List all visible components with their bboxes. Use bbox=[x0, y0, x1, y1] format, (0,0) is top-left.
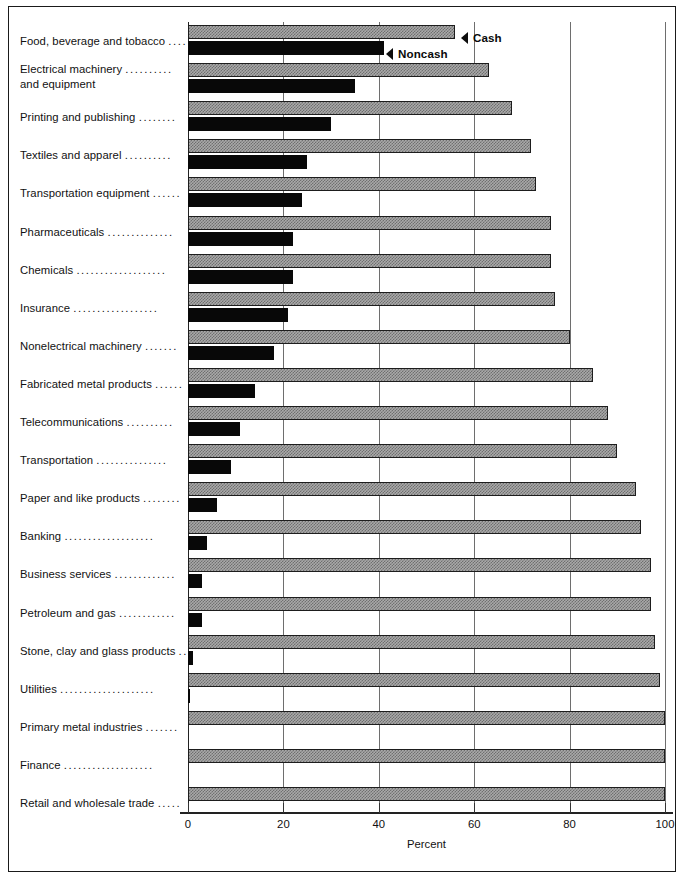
leader-dots: .................... bbox=[60, 683, 155, 695]
category-label-text: Banking ................... bbox=[20, 530, 154, 542]
cash-bar bbox=[188, 406, 608, 420]
leader-dots: ........ bbox=[139, 111, 177, 123]
leader-dots: ....... bbox=[145, 340, 178, 352]
category-label: Textiles and apparel .......... bbox=[20, 136, 188, 174]
leader-dots: ...... bbox=[155, 378, 183, 390]
x-tick bbox=[665, 803, 666, 813]
bar-row bbox=[188, 327, 665, 365]
leader-dots: ............. bbox=[114, 568, 176, 580]
bar-row bbox=[188, 441, 665, 479]
x-tick-label: 60 bbox=[468, 818, 481, 830]
category-label-text: Primary metal industries ....... bbox=[20, 721, 179, 733]
x-tick-label: 20 bbox=[277, 818, 290, 830]
leader-dots: ..... bbox=[158, 797, 182, 809]
category-label-text: Utilities .................... bbox=[20, 683, 155, 695]
cash-bar bbox=[188, 711, 665, 725]
bar-row bbox=[188, 403, 665, 441]
noncash-bar bbox=[188, 422, 240, 436]
category-label-text: Nonelectrical machinery ....... bbox=[20, 340, 178, 352]
category-label: Printing and publishing ........ bbox=[20, 98, 188, 136]
category-label: Fabricated metal products ...... bbox=[20, 365, 188, 403]
noncash-bar bbox=[188, 460, 231, 474]
cash-bar bbox=[188, 25, 455, 39]
leader-dots: .......... bbox=[125, 63, 172, 75]
cash-bar bbox=[188, 520, 641, 534]
category-label-text: Transportation ............... bbox=[20, 454, 167, 466]
bar-row bbox=[188, 517, 665, 555]
bar-rows bbox=[188, 22, 665, 812]
x-tick-label: 80 bbox=[563, 818, 576, 830]
cash-bar bbox=[188, 292, 555, 306]
category-label: Transportation ............... bbox=[20, 441, 188, 479]
cash-bar bbox=[188, 216, 551, 230]
cash-bar bbox=[188, 444, 617, 458]
noncash-bar bbox=[188, 270, 293, 284]
x-tick bbox=[474, 803, 475, 813]
noncash-bar bbox=[188, 536, 207, 550]
category-label-text: Stone, clay and glass products .. bbox=[20, 645, 188, 657]
noncash-bar bbox=[188, 613, 202, 627]
x-axis-line bbox=[180, 812, 673, 814]
leader-dots: ................... bbox=[64, 530, 154, 542]
legend-cash-label: Cash bbox=[473, 31, 502, 44]
legend-noncash-label: Noncash bbox=[398, 47, 448, 60]
category-label: Food, beverage and tobacco .... bbox=[20, 22, 188, 60]
x-tick-label: 40 bbox=[373, 818, 386, 830]
noncash-bar bbox=[188, 498, 217, 512]
bar-row bbox=[188, 555, 665, 593]
cash-bar bbox=[188, 558, 651, 572]
category-label-text: Printing and publishing ........ bbox=[20, 111, 177, 123]
bar-row bbox=[188, 251, 665, 289]
category-label-text: Retail and wholesale trade ..... bbox=[20, 797, 181, 809]
bar-row bbox=[188, 670, 665, 708]
x-tick bbox=[188, 803, 189, 813]
leader-dots: .... bbox=[168, 35, 187, 47]
cash-bar bbox=[188, 482, 636, 496]
category-label: Banking ................... bbox=[20, 517, 188, 555]
chart-plot-area bbox=[188, 22, 665, 812]
noncash-bar bbox=[188, 574, 202, 588]
category-label: Retail and wholesale trade ..... bbox=[20, 784, 188, 822]
category-label: Insurance .................. bbox=[20, 289, 188, 327]
category-label-text: Petroleum and gas ............ bbox=[20, 607, 176, 619]
bar-row bbox=[188, 60, 665, 98]
cash-bar bbox=[188, 63, 489, 77]
cash-bar bbox=[188, 749, 665, 763]
leader-dots: ................... bbox=[76, 264, 166, 276]
noncash-bar bbox=[188, 79, 355, 93]
category-label: Chemicals ................... bbox=[20, 251, 188, 289]
cash-bar bbox=[188, 635, 655, 649]
category-label-text: Food, beverage and tobacco .... bbox=[20, 35, 187, 47]
noncash-bar bbox=[188, 117, 331, 131]
bar-row bbox=[188, 289, 665, 327]
cash-bar bbox=[188, 177, 536, 191]
x-axis: 020406080100 Percent bbox=[188, 812, 665, 872]
category-label-text: Telecommunications .......... bbox=[20, 416, 174, 428]
noncash-bar bbox=[188, 232, 293, 246]
leader-dots: ................... bbox=[64, 759, 154, 771]
category-label: Paper and like products ........ bbox=[20, 479, 188, 517]
category-label: Telecommunications .......... bbox=[20, 403, 188, 441]
cash-bar bbox=[188, 101, 512, 115]
noncash-bar bbox=[188, 384, 255, 398]
category-label-text: Electrical machinery .......... bbox=[20, 62, 188, 77]
noncash-bar bbox=[188, 308, 288, 322]
category-label: Stone, clay and glass products .. bbox=[20, 632, 188, 670]
x-axis-title: Percent bbox=[188, 838, 665, 850]
category-label: Finance ................... bbox=[20, 746, 188, 784]
leader-dots: .................. bbox=[73, 302, 158, 314]
left-arrow-icon bbox=[386, 48, 393, 60]
category-label: Nonelectrical machinery ....... bbox=[20, 327, 188, 365]
category-label: Pharmaceuticals .............. bbox=[20, 213, 188, 251]
category-label-text: Transportation equipment ...... bbox=[20, 187, 181, 199]
cash-bar bbox=[188, 254, 551, 268]
leader-dots: ...... bbox=[153, 187, 181, 199]
bar-row bbox=[188, 632, 665, 670]
noncash-bar bbox=[188, 689, 190, 703]
legend-cash-callout: Cash bbox=[461, 31, 502, 44]
noncash-bar bbox=[188, 41, 384, 55]
category-label-text: Insurance .................. bbox=[20, 302, 159, 314]
leader-dots: ....... bbox=[146, 721, 179, 733]
category-label-text-line2: and equipment bbox=[20, 77, 188, 92]
category-label: Transportation equipment ...... bbox=[20, 174, 188, 212]
